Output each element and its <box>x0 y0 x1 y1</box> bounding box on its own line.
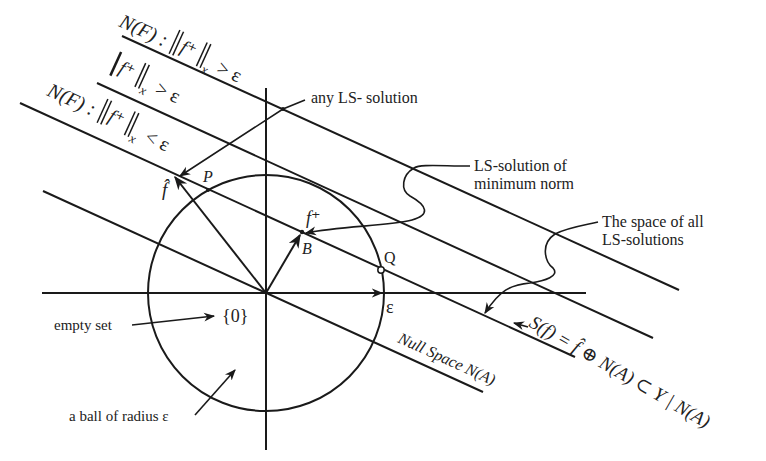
label-epsilon: ε <box>386 297 394 317</box>
label-space-all-2: LS-solutions <box>602 231 684 248</box>
label-origin-set: {0} <box>222 306 248 326</box>
svg-text:x: x <box>126 130 139 147</box>
callout-empty-set <box>132 316 214 325</box>
svg-text:x: x <box>137 82 150 99</box>
label-P: P <box>202 168 213 185</box>
line-null-space <box>43 191 483 392</box>
label-band-top: N(F) : f⁺ x > ε <box>113 6 248 91</box>
label-solution-set: S(f) = f̂ ⊕ N(A) ⊂ Y | N(A) <box>526 311 715 433</box>
point-P-marker <box>206 188 210 192</box>
point-Q-marker <box>378 267 384 273</box>
point-B-marker <box>300 230 304 234</box>
callout-space-of-all <box>485 222 598 313</box>
label-f-hat: f̂ <box>162 179 171 200</box>
svg-text:< ε: < ε <box>142 125 174 155</box>
svg-text:N(F) :: N(F) : <box>43 78 99 120</box>
label-f-plus: f⁺ <box>306 208 321 228</box>
svg-text:f⁺: f⁺ <box>116 57 139 82</box>
svg-text:> ε: > ε <box>152 77 184 107</box>
label-Q: Q <box>384 249 396 266</box>
label-empty-set: empty set <box>54 317 113 333</box>
label-any-ls-solution: any LS- solution <box>311 89 418 107</box>
label-ball: a ball of radius ε <box>69 408 169 424</box>
callout-s-f <box>514 323 528 327</box>
svg-text:> ε: > ε <box>214 56 246 86</box>
callout-ls-min-norm <box>306 166 470 234</box>
svg-text:S(f) = f̂ ⊕ N(A) ⊂ Y | N(A): S(f) = f̂ ⊕ N(A) ⊂ Y | N(A) <box>526 311 715 433</box>
label-ls-min-norm-2: minimum norm <box>474 175 575 192</box>
label-space-all-1: The space of all <box>602 213 704 231</box>
label-B: B <box>302 240 312 257</box>
least-squares-diagram: N(F) : f⁺ x > ε f⁺ x > ε N(F) : f⁺ x < ε… <box>0 0 766 461</box>
vector-f-plus <box>266 235 300 293</box>
label-ls-min-norm-1: LS-solution of <box>474 157 568 174</box>
